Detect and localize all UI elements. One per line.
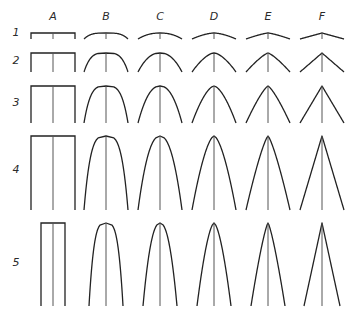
shape-3d <box>192 86 236 123</box>
row-label-5: 5 <box>13 256 20 269</box>
column-label-f: F <box>319 10 326 23</box>
shape-4a <box>31 136 75 210</box>
shape-4b <box>84 136 128 210</box>
shape-5d <box>197 223 231 306</box>
row-label-4: 4 <box>13 163 20 176</box>
column-label-e: E <box>265 10 272 23</box>
shape-5f <box>304 223 340 306</box>
row-label-1: 1 <box>13 26 20 39</box>
shape-4c <box>138 136 182 210</box>
shape-2d <box>192 53 236 72</box>
shape-1c <box>138 33 182 39</box>
shape-4f <box>300 136 344 210</box>
shape-1e <box>246 33 290 39</box>
column-label-d: D <box>210 10 218 23</box>
shape-5a <box>41 223 65 306</box>
shape-3e <box>246 86 290 123</box>
shape-4d <box>192 136 236 210</box>
column-label-b: B <box>102 10 110 23</box>
shape-5e <box>251 223 285 306</box>
nose-shape-diagram: ABCDEF12345 <box>0 0 358 319</box>
shape-1b <box>84 33 128 39</box>
shape-1d <box>192 33 236 39</box>
column-label-c: C <box>156 10 164 23</box>
shape-1f <box>300 33 344 39</box>
shape-2e <box>246 53 290 72</box>
shape-2a <box>31 53 75 72</box>
shape-2c <box>138 53 182 72</box>
column-label-a: A <box>48 10 57 23</box>
shape-4e <box>246 136 290 210</box>
shape-3b <box>84 86 128 123</box>
row-label-2: 2 <box>13 54 20 67</box>
diagram-canvas: ABCDEF12345 <box>0 0 358 319</box>
shape-5c <box>143 223 177 306</box>
shape-3a <box>31 86 75 123</box>
shape-1a <box>31 33 75 39</box>
shape-3f <box>300 86 344 123</box>
row-label-3: 3 <box>13 96 20 109</box>
shape-3c <box>138 86 182 123</box>
shape-5b <box>89 223 123 306</box>
shape-2b <box>84 53 128 72</box>
shape-2f <box>300 53 344 72</box>
